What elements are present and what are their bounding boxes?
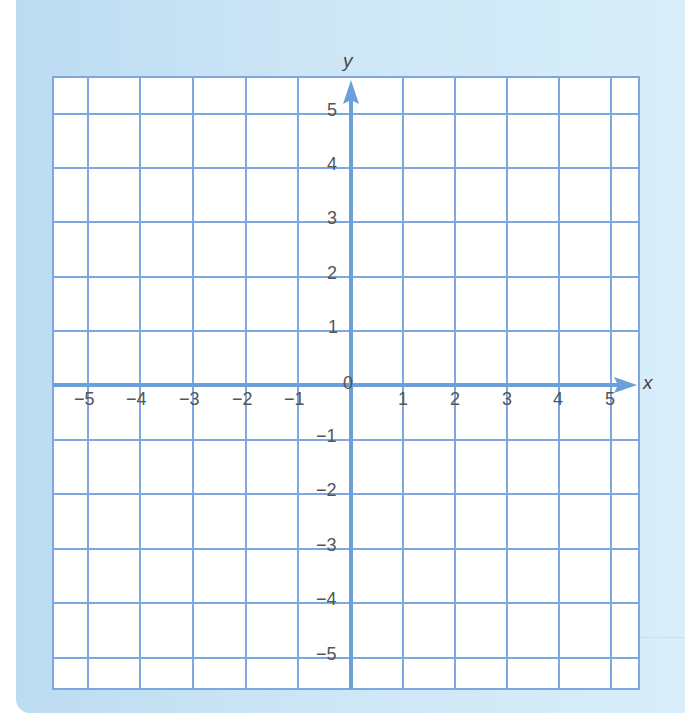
y-tick-label: −2 [316, 481, 337, 499]
y-tick-label: 3 [327, 209, 337, 227]
y-tick-label: 5 [327, 101, 337, 119]
y-tick-label: −1 [316, 427, 337, 445]
y-tick-label: −5 [316, 645, 337, 663]
y-tick-label: 1 [328, 318, 338, 336]
y-tick-label: 2 [327, 264, 337, 282]
coordinate-grid [0, 0, 685, 713]
x-tick-label: −3 [179, 390, 200, 408]
y-tick-label: 4 [327, 155, 337, 173]
y-tick-label: −3 [316, 536, 337, 554]
x-tick-label: −4 [126, 390, 147, 408]
x-tick-label: 3 [502, 390, 512, 408]
x-tick-label: 2 [450, 390, 460, 408]
x-tick-label: −1 [284, 390, 305, 408]
x-tick-label: 5 [605, 390, 615, 408]
y-tick-label: −4 [316, 590, 337, 608]
x-tick-label: −5 [74, 390, 95, 408]
x-tick-label: −2 [232, 390, 253, 408]
origin-label: 0 [343, 374, 353, 392]
x-tick-label: 1 [398, 390, 408, 408]
y-axis-label: y [343, 52, 353, 70]
x-tick-label: 4 [553, 390, 563, 408]
x-axis-label: x [643, 374, 653, 392]
